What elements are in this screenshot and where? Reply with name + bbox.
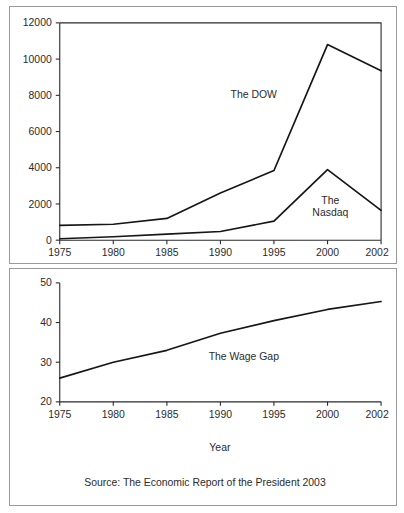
wage-gap-line-chart: 20 30 40 50 1975 1980 1985 1990 1995 200… [10, 269, 396, 505]
xtick-label-2000: 2000 [316, 247, 339, 258]
series-annotation-the-nasdaq-line1: The [321, 195, 339, 206]
xtick-label-1985: 1985 [155, 247, 178, 258]
xtick-label-1985: 1985 [155, 409, 178, 420]
indices-line-chart: 0 2000 4000 6000 8000 10000 12000 1975 1… [10, 7, 396, 263]
ytick-label-10000: 10000 [23, 54, 52, 65]
xtick-label-1975: 1975 [48, 247, 71, 258]
xtick-label-2002: 2002 [365, 247, 388, 258]
xtick-label-1990: 1990 [209, 247, 232, 258]
xtick-label-1995: 1995 [262, 247, 285, 258]
xtick-label-1995: 1995 [262, 409, 285, 420]
chart-panel-indices: 0 2000 4000 6000 8000 10000 12000 1975 1… [9, 6, 397, 264]
ytick-label-50: 50 [40, 277, 52, 288]
chart-panel-wage-gap: 20 30 40 50 1975 1980 1985 1990 1995 200… [9, 268, 397, 506]
xtick-label-2002: 2002 [366, 409, 389, 420]
ytick-label-6000: 6000 [29, 126, 52, 137]
xtick-label-1980: 1980 [102, 409, 125, 420]
ytick-label-8000: 8000 [29, 90, 52, 101]
axis-frame-left-bottom [60, 283, 381, 402]
xtick-label-1980: 1980 [102, 247, 125, 258]
ytick-label-30: 30 [40, 357, 52, 368]
x-axis-title: Year [209, 442, 231, 453]
xtick-label-1990: 1990 [209, 409, 232, 420]
ytick-label-40: 40 [40, 317, 52, 328]
xtick-label-2000: 2000 [316, 409, 339, 420]
series-line-the-wage-gap [60, 302, 381, 379]
ytick-label-20: 20 [40, 396, 52, 407]
ytick-label-2000: 2000 [29, 199, 52, 210]
source-note: Source: The Economic Report of the Presi… [84, 477, 326, 488]
xtick-label-1975: 1975 [48, 409, 71, 420]
ytick-label-4000: 4000 [29, 162, 52, 173]
series-annotation-the-nasdaq-line2: Nasdaq [312, 207, 348, 218]
series-annotation-the-wage-gap: The Wage Gap [209, 351, 280, 362]
series-annotation-the-dow: The DOW [231, 89, 278, 100]
ytick-label-12000: 12000 [23, 17, 52, 28]
ytick-label-0: 0 [46, 235, 52, 246]
figure-container: 0 2000 4000 6000 8000 10000 12000 1975 1… [0, 0, 404, 513]
